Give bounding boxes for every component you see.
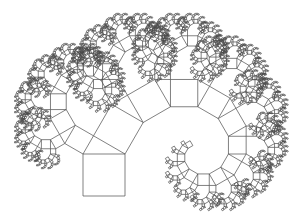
pythagoras-tree-figure — [0, 0, 298, 220]
pythagoras-tree — [15, 13, 289, 211]
tree-squares — [15, 13, 289, 211]
